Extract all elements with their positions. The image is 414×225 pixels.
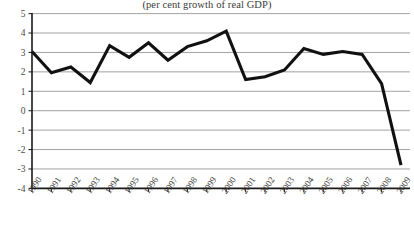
x-tick-label: 1998 [181, 175, 200, 196]
y-tick-label: 0 [21, 106, 26, 116]
gridlines [32, 14, 410, 169]
y-tick-label: -4 [18, 184, 26, 194]
x-axis-labels: 1990199119921993199419951996199719981999… [25, 175, 413, 196]
x-tick-label: 1993 [84, 175, 103, 196]
x-tick-label: 1992 [64, 175, 82, 196]
y-tick-label: 5 [21, 9, 26, 19]
y-tick-label: 2 [21, 67, 26, 77]
x-tick-label: 2004 [297, 175, 316, 196]
x-tick-label: 1997 [161, 175, 180, 196]
x-tick-label: 1990 [25, 175, 44, 196]
x-tick-label: 2007 [356, 175, 375, 196]
y-tick-label: 3 [21, 48, 26, 58]
gdp-growth-chart: (per cent growth of real GDP) 1990199119… [0, 0, 414, 225]
x-tick-label: 2003 [278, 175, 297, 196]
y-tick-label: 4 [21, 28, 26, 38]
y-tick-label: -2 [18, 145, 26, 155]
x-tick-label: 2000 [220, 175, 239, 196]
y-tick-label: -3 [18, 164, 26, 174]
x-tick-label: 2009 [394, 175, 413, 196]
chart-plot-area: 1990199119921993199419951996199719981999… [0, 0, 414, 225]
x-tick-label: 2006 [336, 175, 355, 196]
y-tick-label: -1 [18, 126, 26, 136]
data-series-line [32, 31, 401, 165]
x-tick-label: 2002 [258, 175, 276, 196]
y-axis-labels: 543210-1-2-3-4 [18, 9, 26, 194]
x-tick-label: 2001 [239, 175, 257, 196]
x-tick-label: 2008 [375, 175, 394, 196]
x-tick-label: 1995 [122, 175, 141, 196]
y-tick-label: 1 [21, 87, 26, 97]
x-tick-label: 1999 [200, 175, 219, 196]
x-tick-label: 2005 [317, 175, 336, 196]
x-tick-label: 1991 [45, 175, 63, 196]
x-tick-label: 1996 [142, 175, 161, 196]
x-tick-label: 1994 [103, 175, 122, 196]
